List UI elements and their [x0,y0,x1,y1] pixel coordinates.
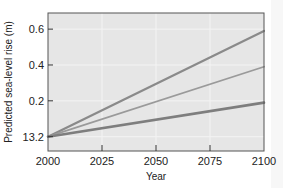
sea-level-chart: 13.20.20.40.6 20002025205020752100 Year … [0,0,283,188]
x-tick-label: 2100 [252,155,276,167]
x-tick-label: 2075 [198,155,222,167]
y-tick-label: 13.2 [23,131,44,143]
y-tick-label: 0.6 [29,23,44,35]
x-tick-label: 2050 [144,155,168,167]
y-axis-title: Predicted sea-level rise (m) [3,21,14,143]
x-tick-label: 2000 [36,155,60,167]
y-tick-label: 0.4 [29,59,44,71]
x-axis-title: Year [146,171,167,182]
x-tick-label: 2025 [90,155,114,167]
y-tick-label: 0.2 [29,95,44,107]
